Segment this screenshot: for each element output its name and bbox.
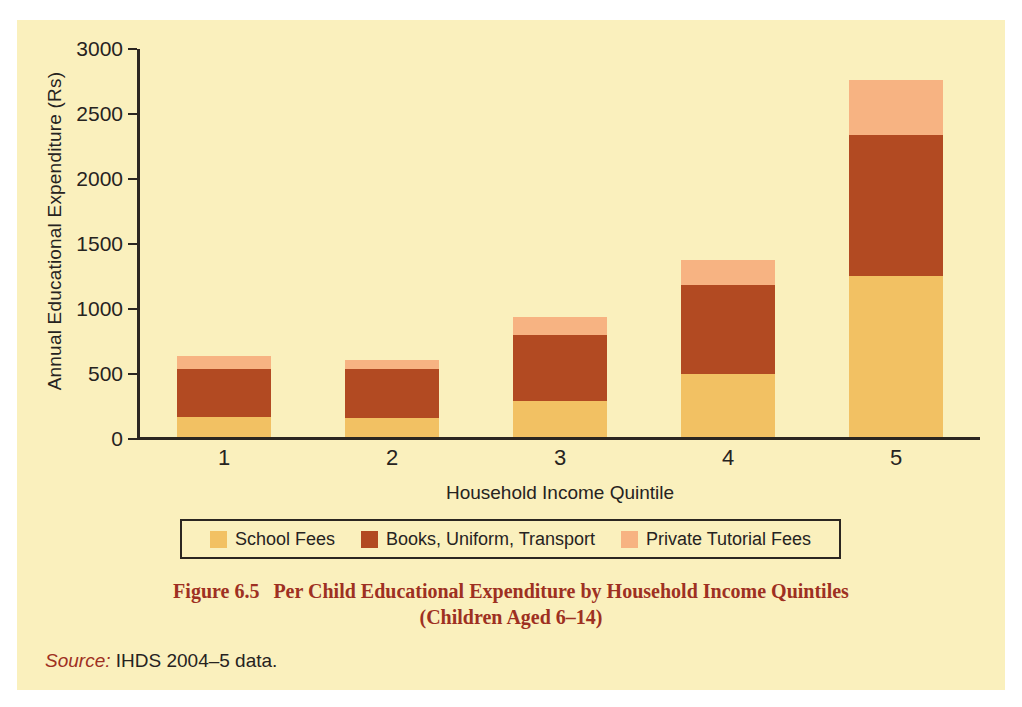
x-tick-label: 5	[812, 445, 980, 471]
source-note: Source: IHDS 2004–5 data.	[45, 650, 277, 672]
stacked-bar	[513, 317, 607, 437]
bar-group-quintile-5	[812, 47, 980, 437]
x-axis-line	[137, 437, 980, 440]
y-tick-label: 0	[111, 427, 123, 451]
y-tick-mark	[128, 48, 137, 50]
x-axis-ticks: 12345	[140, 445, 980, 471]
x-tick-label: 3	[476, 445, 644, 471]
y-tick-mark	[128, 243, 137, 245]
figure-caption: Figure 6.5Per Child Educational Expendit…	[57, 578, 965, 630]
source-value: IHDS 2004–5 data.	[110, 650, 277, 671]
bar-segment	[849, 276, 943, 437]
bar-segment	[513, 401, 607, 437]
y-axis-ticks: 050010001500200025003000	[33, 20, 137, 460]
y-tick-mark	[128, 373, 137, 375]
chart-legend: School FeesBooks, Uniform, TransportPriv…	[180, 519, 841, 559]
stacked-bars	[140, 47, 980, 437]
legend-label: School Fees	[235, 529, 335, 550]
caption-number: Figure 6.5	[173, 580, 259, 602]
legend-label: Private Tutorial Fees	[646, 529, 811, 550]
legend-item[interactable]: Books, Uniform, Transport	[361, 529, 595, 550]
legend-label: Books, Uniform, Transport	[386, 529, 595, 550]
stacked-bar	[849, 80, 943, 437]
legend-swatch-icon	[621, 531, 638, 548]
caption-line-1: Per Child Educational Expenditure by Hou…	[273, 580, 848, 602]
stacked-bar	[681, 260, 775, 437]
stacked-bar	[345, 360, 439, 437]
bar-segment	[849, 135, 943, 277]
y-tick-label: 1500	[76, 232, 123, 256]
x-axis-label: Household Income Quintile	[140, 482, 980, 504]
x-tick-label: 4	[644, 445, 812, 471]
y-tick-label: 500	[88, 362, 123, 386]
bar-segment	[177, 417, 271, 437]
caption-line-2: (Children Aged 6–14)	[420, 606, 603, 628]
y-tick-mark	[128, 438, 137, 440]
bar-segment	[345, 418, 439, 437]
bar-segment	[513, 317, 607, 335]
figure-panel: Annual Educational Expenditure (Rs) 0500…	[17, 20, 1005, 690]
bar-segment	[345, 369, 439, 418]
bar-group-quintile-2	[308, 47, 476, 437]
stacked-bar	[177, 356, 271, 437]
y-tick-mark	[128, 178, 137, 180]
x-tick-label: 1	[140, 445, 308, 471]
bar-group-quintile-1	[140, 47, 308, 437]
bar-segment	[177, 356, 271, 368]
y-tick-label: 2500	[76, 102, 123, 126]
bar-segment	[681, 285, 775, 374]
y-tick-label: 3000	[76, 37, 123, 61]
chart-plot-area: Annual Educational Expenditure (Rs) 0500…	[17, 20, 1005, 520]
bar-segment	[681, 260, 775, 285]
legend-item[interactable]: Private Tutorial Fees	[621, 529, 811, 550]
source-label: Source:	[45, 650, 110, 671]
y-tick-label: 1000	[76, 297, 123, 321]
legend-swatch-icon	[361, 531, 378, 548]
legend-item[interactable]: School Fees	[210, 529, 335, 550]
y-tick-mark	[128, 113, 137, 115]
bar-group-quintile-3	[476, 47, 644, 437]
y-tick-mark	[128, 308, 137, 310]
legend-swatch-icon	[210, 531, 227, 548]
bar-group-quintile-4	[644, 47, 812, 437]
y-tick-label: 2000	[76, 167, 123, 191]
bar-segment	[849, 80, 943, 135]
bar-segment	[681, 374, 775, 437]
bar-segment	[345, 360, 439, 369]
x-tick-label: 2	[308, 445, 476, 471]
bar-segment	[177, 369, 271, 417]
bar-segment	[513, 335, 607, 401]
